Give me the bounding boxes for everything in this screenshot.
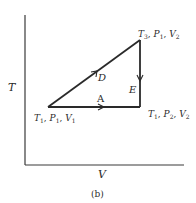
path-label-A: A bbox=[96, 93, 105, 104]
path-A bbox=[48, 104, 140, 110]
path-label-E: E bbox=[128, 84, 137, 95]
path-D bbox=[48, 40, 140, 107]
x-axis-label: V bbox=[98, 168, 107, 181]
vertex-label-top: T3, P1, V2 bbox=[138, 29, 180, 40]
path-E bbox=[137, 40, 143, 107]
thermodynamic-path-diagram: T V (b) D E A T3, P1, V2 T1, P1, V1 T bbox=[0, 0, 196, 203]
vertex-label-end: T1, P2, V2 bbox=[148, 109, 190, 120]
vertex-label-start: T1, P1, V1 bbox=[34, 113, 76, 124]
figure-caption: (b) bbox=[91, 189, 104, 199]
path-label-D: D bbox=[97, 72, 106, 83]
y-axis-label: T bbox=[8, 81, 17, 94]
